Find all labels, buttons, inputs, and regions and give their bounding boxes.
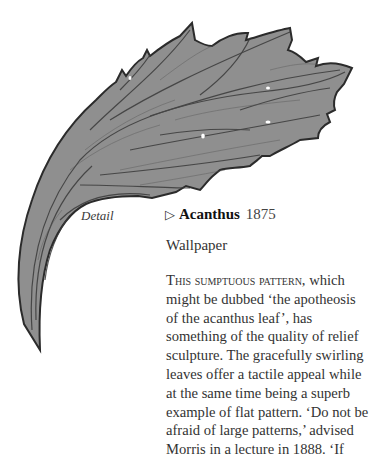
body-line: This sumptuous pattern, which <box>166 271 372 290</box>
leaf-hole <box>266 121 271 124</box>
leaf-hole <box>201 134 205 139</box>
body-line: of the acanthus leaf’, has <box>166 309 372 328</box>
entry-description: This sumptuous pattern, which might be d… <box>166 271 372 458</box>
body-line: might be dubbed ‘the apotheosis <box>166 290 372 309</box>
entry-year: 1875 <box>246 206 276 222</box>
entry-name: Acanthus <box>179 206 240 222</box>
body-line: Morris in a lecture in 1888. ‘If <box>166 440 372 458</box>
body-line: example of flat pattern. ‘Do not be <box>166 403 372 422</box>
leaf-hole <box>129 76 132 80</box>
body-line: something of the quality of relief <box>166 327 372 346</box>
body-line: leaves offer a tactile appeal while <box>166 365 372 384</box>
entry-title: ▷Acanthus1875 <box>165 206 276 223</box>
entry-type: Wallpaper <box>166 237 227 254</box>
illustration-caption: Detail <box>81 208 114 224</box>
body-line: afraid of large patterns,’ advised <box>166 421 372 440</box>
body-line: sculpture. The gracefully swirling <box>166 346 372 365</box>
lead-small-caps: This sumptuous pattern, <box>166 272 306 288</box>
leaf-hole <box>266 87 270 90</box>
body-line: at the same time being a superb <box>166 384 372 403</box>
triangle-marker-icon: ▷ <box>165 207 175 223</box>
